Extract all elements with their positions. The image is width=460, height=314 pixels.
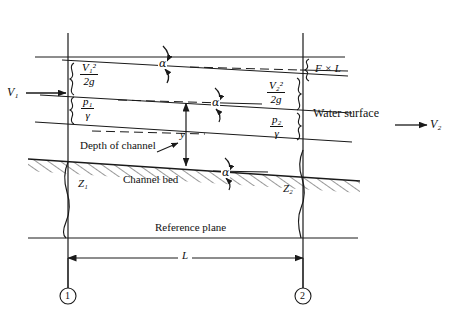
brace-velocity-head-1: [70, 63, 74, 95]
reference-plane-label: Reference plane: [155, 222, 226, 233]
depth-leader-line: [157, 143, 178, 152]
channel-bed-label: Channel bed: [123, 174, 178, 185]
alpha-middle-label: α: [211, 97, 220, 108]
v2-label: V₂: [430, 118, 442, 130]
depth-symbol-label: y: [180, 129, 185, 140]
water-surface-label: Water surface: [313, 107, 379, 119]
depth-of-channel-label: Depth of channel: [80, 140, 156, 151]
z2-label: Z₂: [283, 183, 293, 194]
brace-pressure-head-2: [297, 113, 301, 140]
station-1-label: 1: [65, 291, 70, 301]
velocity-head-1-label: V₁² 2g: [80, 62, 98, 87]
pressure-head-2-numerator: p₂: [270, 114, 283, 126]
v1-label: V₁: [7, 86, 19, 98]
length-label: L: [178, 250, 192, 261]
pressure-head-2-label: p₂ γ: [270, 114, 283, 139]
pressure-head-1-denominator: γ: [81, 110, 94, 122]
pressure-head-1-label: p₁ γ: [81, 96, 94, 121]
head-loss-label: F × L: [315, 63, 341, 74]
velocity-head-2-denominator: 2g: [267, 94, 285, 106]
velocity-head-2-label: V₂² 2g: [267, 80, 285, 105]
velocity-head-1-numerator: V₁²: [80, 62, 98, 74]
pressure-head-1-numerator: p₁: [81, 96, 94, 108]
alpha-top-label: α: [158, 58, 167, 69]
pressure-head-2-denominator: γ: [270, 128, 283, 140]
water-surface-ref-right: [224, 103, 262, 104]
station-2-label: 2: [300, 291, 305, 301]
alpha-bed-label: α: [221, 167, 230, 178]
velocity-head-1-denominator: 2g: [80, 76, 98, 88]
velocity-head-2-numerator: V₂²: [267, 80, 285, 92]
energy-diagram: V₁ V₂ V₁² 2g p₁ γ V₂² 2g p₂ γ F × L Wate…: [0, 0, 460, 314]
energy-grade-line: [62, 60, 348, 76]
diagram-canvas: [0, 0, 460, 314]
brace-pressure-head-1: [70, 97, 74, 124]
brace-velocity-head-2: [297, 78, 301, 110]
z1-label: Z₁: [78, 178, 88, 189]
